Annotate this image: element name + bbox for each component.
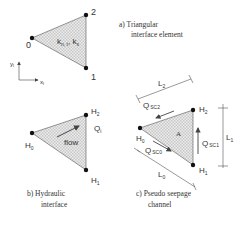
node-1 <box>84 66 88 70</box>
caption-a-line1: a) Triangular <box>119 20 158 29</box>
panel-a-triangular-element: 0 1 2 kn, t, ks yl xl a) Triangular inte… <box>10 7 184 86</box>
y-axis-label: yl <box>10 61 14 68</box>
area-label: A <box>176 130 181 138</box>
node-h2-label: H2 <box>199 105 208 115</box>
permeability-label: kn, t, ks <box>57 37 79 47</box>
node-h2-label: H2 <box>91 107 100 117</box>
caption-b-line1: b) Hydraulic <box>27 189 66 198</box>
x-axis-label: xl <box>40 79 44 86</box>
q-label: Qi <box>94 124 101 134</box>
node-2-label: 2 <box>91 7 96 17</box>
node-h1-label: H1 <box>199 166 208 176</box>
node-h1 <box>191 163 195 167</box>
flow-sc1-label: QSC1 <box>202 139 219 148</box>
length-l2-label: L2 <box>158 79 165 89</box>
node-h2 <box>84 113 88 117</box>
node-2 <box>84 13 88 17</box>
node-h0 <box>138 126 142 130</box>
node-h1 <box>84 168 88 172</box>
flow-sc0-label: QSC0 <box>145 146 162 155</box>
node-1-label: 1 <box>91 72 96 82</box>
panel-b-hydraulic-interface: H0 H1 H2 flow Qi b) Hydraulic interface <box>25 107 101 209</box>
length-l0-label: L0 <box>158 170 165 180</box>
figure-canvas: 0 1 2 kn, t, ks yl xl a) Triangular inte… <box>0 0 238 226</box>
node-h2 <box>191 108 195 112</box>
caption-a-line2: interface element <box>131 30 184 39</box>
node-h0-label: H0 <box>25 141 34 151</box>
caption-c-line1: c) Pseudo seepage <box>136 189 192 198</box>
flow-sc2-arrow-icon <box>156 111 174 118</box>
caption-b-line2: interface <box>41 200 68 209</box>
flow-sc2-label: QSC2 <box>143 101 160 110</box>
length-l1-label: L1 <box>226 133 233 143</box>
caption-c-line2: channel <box>148 200 171 209</box>
node-h0 <box>30 131 34 135</box>
node-h1-label: H1 <box>91 176 100 186</box>
node-0-label: 0 <box>26 40 31 50</box>
node-h0-label: H0 <box>136 134 145 144</box>
panel-c-pseudo-seepage-channel: H0 H1 H2 A QSC2 QSC0 QSC1 L2 L1 L0 c) Ps… <box>134 75 233 209</box>
flow-label: flow <box>64 138 78 147</box>
